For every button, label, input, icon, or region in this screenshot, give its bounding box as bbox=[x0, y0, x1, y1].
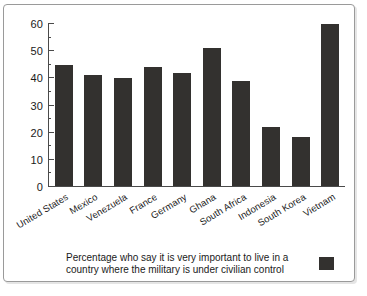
chart-legend: Percentage who say it is very important … bbox=[66, 252, 334, 275]
x-label-slot: Germany bbox=[168, 188, 198, 250]
bar bbox=[55, 65, 73, 187]
bar bbox=[203, 48, 221, 186]
y-tick-label: 60 bbox=[31, 18, 43, 30]
bar-slot bbox=[79, 23, 109, 186]
bar-series bbox=[49, 23, 345, 186]
bar-slot bbox=[227, 23, 257, 186]
y-tick-major bbox=[48, 186, 54, 187]
x-label-slot: United States bbox=[49, 188, 79, 250]
bar bbox=[173, 73, 191, 186]
bar-slot bbox=[315, 23, 345, 186]
bar-slot bbox=[197, 23, 227, 186]
y-tick-label: 0 bbox=[37, 181, 43, 193]
bar bbox=[84, 75, 102, 186]
legend-color-swatch bbox=[319, 257, 334, 270]
bar-slot bbox=[256, 23, 286, 186]
bar-slot bbox=[167, 23, 197, 186]
x-axis-line bbox=[48, 186, 345, 187]
y-tick-label: 50 bbox=[31, 45, 43, 57]
chart-frame: 0102030405060 United StatesMexicoVenezue… bbox=[3, 4, 355, 282]
plot-area: 0102030405060 bbox=[48, 23, 345, 187]
bar bbox=[321, 24, 339, 186]
bar-slot bbox=[108, 23, 138, 186]
bar bbox=[262, 127, 280, 186]
y-tick-label: 30 bbox=[31, 100, 43, 112]
legend-label: Percentage who say it is very important … bbox=[66, 252, 288, 275]
legend-label-line-1: Percentage who say it is very important … bbox=[66, 252, 288, 264]
x-axis-labels: United StatesMexicoVenezuelaFranceGerman… bbox=[49, 188, 346, 250]
legend-label-line-2: country where the military is under civi… bbox=[66, 264, 288, 276]
bar bbox=[292, 137, 310, 186]
y-tick-label: 20 bbox=[31, 127, 43, 139]
y-tick-label: 40 bbox=[31, 72, 43, 84]
bar-slot bbox=[49, 23, 79, 186]
bar-slot bbox=[286, 23, 316, 186]
bar-slot bbox=[138, 23, 168, 186]
x-label-slot: Venezuela bbox=[108, 188, 138, 250]
bar bbox=[232, 81, 250, 186]
x-label-slot: South Korea bbox=[287, 188, 317, 250]
bar bbox=[114, 78, 132, 186]
bar bbox=[144, 67, 162, 186]
chart-screenshot: 0102030405060 United StatesMexicoVenezue… bbox=[0, 0, 367, 296]
y-tick-label: 10 bbox=[31, 154, 43, 166]
x-axis-label: United States bbox=[14, 191, 70, 230]
x-label-slot: Vietnam bbox=[316, 188, 346, 250]
